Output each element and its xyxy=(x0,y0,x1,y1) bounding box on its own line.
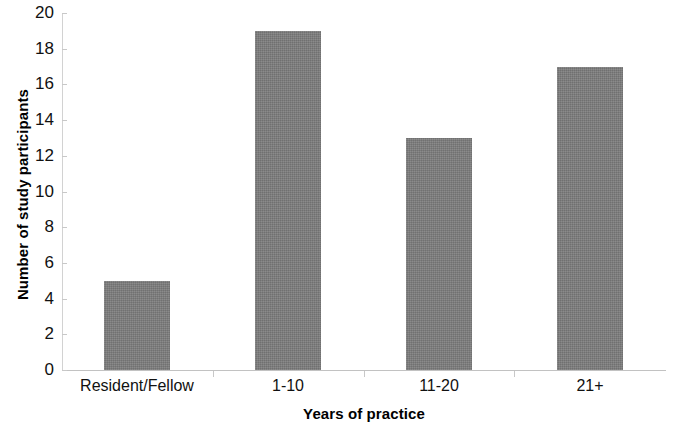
bar xyxy=(255,31,321,370)
y-tick-mark xyxy=(62,13,67,14)
y-tick-mark xyxy=(62,84,67,85)
y-tick-mark xyxy=(62,192,67,193)
bar-chart: Number of study participants 20181614121… xyxy=(0,0,678,434)
y-tick-label: 18 xyxy=(0,39,54,59)
y-tick-label: 0 xyxy=(0,360,54,380)
y-tick-label: 10 xyxy=(0,182,54,202)
x-axis-title: Years of practice xyxy=(62,405,666,422)
y-tick-mark xyxy=(62,299,67,300)
y-tick-mark xyxy=(62,227,67,228)
y-tick-label: 16 xyxy=(0,74,54,94)
y-tick-label: 12 xyxy=(0,146,54,166)
y-tick-label: 2 xyxy=(0,324,54,344)
bar xyxy=(557,67,623,370)
bar xyxy=(406,138,472,370)
y-tick-mark xyxy=(62,334,67,335)
y-tick-mark xyxy=(62,120,67,121)
y-tick-label: 20 xyxy=(0,3,54,23)
y-tick-mark xyxy=(62,370,67,371)
bar xyxy=(104,281,170,370)
x-tick-label: 21+ xyxy=(500,376,678,396)
y-tick-label: 14 xyxy=(0,110,54,130)
y-tick-mark xyxy=(62,156,67,157)
y-tick-label: 6 xyxy=(0,253,54,273)
y-tick-mark xyxy=(62,263,67,264)
y-tick-label: 4 xyxy=(0,289,54,309)
y-tick-label: 8 xyxy=(0,217,54,237)
y-tick-mark xyxy=(62,49,67,50)
